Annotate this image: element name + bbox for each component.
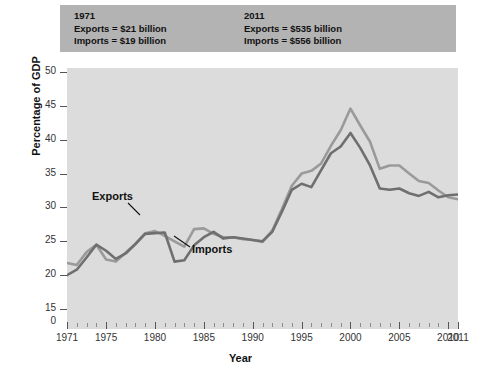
y-tick-label-45: 45 (30, 99, 56, 110)
x-tick-label-1975: 1975 (84, 332, 128, 343)
annotation-exports-2011: Exports = $535 billion (244, 23, 342, 36)
x-tick-2001 (360, 323, 361, 327)
line-imports (67, 133, 458, 275)
y-tick-label-25: 25 (30, 234, 56, 245)
annotation-imports-2011: Imports = $556 billion (244, 35, 342, 48)
x-tick-label-1985: 1985 (182, 332, 226, 343)
x-tick-1989 (243, 323, 244, 327)
y-tick-mark-45 (60, 106, 67, 107)
x-tick-1977 (126, 323, 127, 327)
x-tick-1986 (214, 323, 215, 327)
x-tick-2008 (429, 323, 430, 327)
x-tick-2006 (409, 323, 410, 327)
x-tick-2005 (399, 322, 400, 329)
x-tick-label-2011: 2011 (436, 332, 480, 343)
x-tick-1983 (184, 323, 185, 327)
x-tick-label-1990: 1990 (231, 332, 275, 343)
annotation-imports-1971: Imports = $19 billion (74, 35, 167, 48)
x-tick-1974 (96, 323, 97, 327)
y-tick-label-50: 50 (30, 65, 56, 76)
y-tick-mark-15 (60, 309, 67, 310)
x-tick-1996 (311, 323, 312, 327)
y-tick-label-35: 35 (30, 167, 56, 178)
x-tick-1998 (331, 323, 332, 327)
x-tick-2010 (448, 322, 449, 329)
x-tick-1972 (77, 323, 78, 327)
summary-annotation-box: 1971 Exports = $21 billion Imports = $19… (60, 5, 456, 52)
x-tick-2004 (390, 323, 391, 327)
y-tick-label-0: 0 (30, 315, 56, 326)
x-tick-1979 (145, 323, 146, 327)
x-tick-1984 (194, 323, 195, 327)
x-tick-1971 (67, 322, 68, 329)
x-tick-2007 (419, 323, 420, 327)
y-tick-mark-25 (60, 241, 67, 242)
x-tick-1990 (253, 322, 254, 329)
x-tick-label-1980: 1980 (133, 332, 177, 343)
x-tick-label-1971: 1971 (45, 332, 89, 343)
x-tick-1993 (282, 323, 283, 327)
x-tick-1978 (135, 323, 136, 327)
x-tick-label-1995: 1995 (280, 332, 324, 343)
x-tick-1975 (106, 322, 107, 329)
x-tick-2002 (370, 323, 371, 327)
x-tick-2009 (438, 323, 439, 327)
x-tick-1985 (204, 322, 205, 329)
x-tick-1982 (175, 323, 176, 327)
y-tick-mark-40 (60, 140, 67, 141)
x-tick-1988 (233, 323, 234, 327)
x-tick-1995 (302, 322, 303, 329)
x-tick-1980 (155, 322, 156, 329)
x-tick-label-2005: 2005 (377, 332, 421, 343)
series-label-exports: Exports (92, 190, 133, 202)
annotation-year-1971: 1971 (74, 10, 167, 23)
y-tick-mark-30 (60, 207, 67, 208)
y-tick-label-20: 20 (30, 268, 56, 279)
x-tick-1987 (223, 323, 224, 327)
x-tick-1976 (116, 323, 117, 327)
annotation-column-1971: 1971 Exports = $21 billion Imports = $19… (74, 10, 167, 48)
x-tick-1981 (165, 323, 166, 327)
x-tick-1991 (263, 323, 264, 327)
y-tick-mark-35 (60, 174, 67, 175)
series-label-imports: Imports (192, 243, 232, 255)
y-tick-mark-50 (60, 72, 67, 73)
x-tick-2011 (458, 322, 459, 329)
x-tick-label-2000: 2000 (328, 332, 372, 343)
annotation-exports-1971: Exports = $21 billion (74, 23, 167, 36)
y-tick-label-40: 40 (30, 133, 56, 144)
x-tick-1994 (292, 323, 293, 327)
y-tick-mark-20 (60, 275, 67, 276)
annotation-year-2011: 2011 (244, 10, 342, 23)
x-tick-1973 (87, 323, 88, 327)
x-axis-ticks (67, 322, 458, 330)
x-tick-1997 (321, 323, 322, 327)
y-tick-label-15: 15 (30, 302, 56, 313)
y-tick-label-30: 30 (30, 200, 56, 211)
x-axis-title: Year (0, 352, 481, 364)
x-tick-2000 (350, 322, 351, 329)
x-tick-2003 (380, 323, 381, 327)
annotation-column-2011: 2011 Exports = $535 billion Imports = $5… (244, 10, 342, 48)
x-tick-1999 (341, 323, 342, 327)
x-tick-1992 (272, 323, 273, 327)
